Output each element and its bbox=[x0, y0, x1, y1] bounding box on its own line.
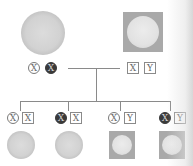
child-3-chromosome-y: Y bbox=[124, 112, 136, 124]
child-1-symbol bbox=[7, 131, 35, 159]
child-2-chromosome-x-maternal: X bbox=[55, 112, 67, 124]
mother-chromosome-x-carrier: X bbox=[45, 62, 57, 74]
child-2-chromosome-x-paternal: X bbox=[70, 112, 82, 124]
child-3-symbol bbox=[109, 131, 135, 159]
marriage-line bbox=[68, 68, 120, 69]
child-1-chromosome-x-maternal: X bbox=[7, 112, 19, 124]
child-3-chromosome-x-maternal: X bbox=[108, 112, 120, 124]
child-drop-2 bbox=[68, 101, 69, 111]
father-symbol bbox=[123, 12, 163, 52]
child-drop-4 bbox=[170, 101, 171, 111]
child-drop-3 bbox=[120, 101, 121, 111]
mother-symbol bbox=[21, 11, 65, 55]
child-4-symbol bbox=[159, 131, 185, 159]
mother-chromosome-x-normal: X bbox=[28, 62, 40, 74]
child-4-chromosome-y: Y bbox=[174, 112, 186, 124]
father-face bbox=[127, 16, 159, 48]
child-2-symbol bbox=[55, 131, 83, 159]
father-chromosome-x: X bbox=[127, 62, 139, 74]
child-3-face bbox=[112, 135, 132, 155]
child-4-face bbox=[162, 135, 182, 155]
child-1-chromosome-x-paternal: X bbox=[22, 112, 34, 124]
child-drop-1 bbox=[20, 101, 21, 111]
father-chromosome-y: Y bbox=[144, 62, 156, 74]
sibship-line bbox=[20, 101, 171, 102]
pedigree-diagram: X X X Y X X X X X Y X Y bbox=[0, 0, 193, 166]
descent-line bbox=[96, 68, 97, 101]
child-4-chromosome-x-maternal: X bbox=[159, 112, 171, 124]
